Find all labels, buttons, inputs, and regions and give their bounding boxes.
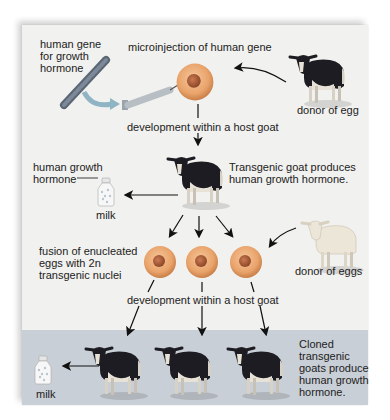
- label-human-growth-hormone: human growth hormone: [33, 161, 103, 185]
- cloned-goat-icon: [156, 347, 218, 400]
- egg-cell-icon: [144, 246, 176, 278]
- label-fusion: fusion of enucleated eggs with 2n transg…: [39, 245, 137, 281]
- label-donor-of-egg: donor of egg: [297, 104, 359, 116]
- label-development-1: development within a host goat: [127, 121, 279, 133]
- label-milk-1: milk: [96, 209, 116, 221]
- label-donor-of-eggs: donor of eggs: [295, 265, 362, 277]
- donor-goat-icon: [290, 55, 352, 108]
- label-development-2: development within a host goat: [127, 294, 279, 306]
- egg-cell-icon: [186, 246, 218, 278]
- label-human-gene: human gene for growth hormone: [40, 38, 101, 74]
- label-microinjection: microinjection of human gene: [128, 41, 272, 53]
- egg-cell-icon: [177, 64, 214, 101]
- syringe-icon: [122, 80, 186, 110]
- label-milk-2: milk: [36, 388, 56, 400]
- gene-transfer-arrow: [84, 92, 112, 105]
- cloned-goat-icon: [228, 347, 290, 400]
- transgenic-goat-icon: [168, 157, 230, 210]
- label-transgenic-goat: Transgenic goat produces human growth ho…: [229, 161, 356, 185]
- milk-bottle-icon: [35, 356, 51, 384]
- egg-cell-icon: [230, 246, 262, 278]
- cloned-goat-icon: [86, 347, 148, 400]
- label-cloned-goats: Cloned transgenic goats produce human gr…: [299, 338, 369, 398]
